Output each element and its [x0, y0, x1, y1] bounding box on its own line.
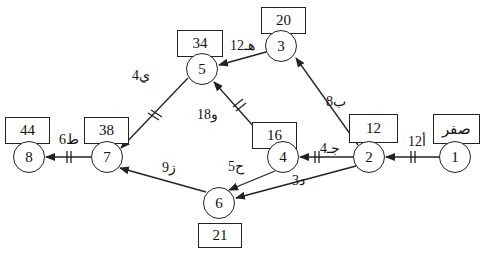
- node-3: 3: [265, 30, 297, 62]
- time-value: 21: [213, 227, 228, 244]
- node-label: 4: [279, 149, 287, 166]
- time-box-node-8: 44: [5, 117, 50, 144]
- time-value: 44: [20, 122, 35, 139]
- node-label: 6: [215, 195, 223, 212]
- edge-label-5-7: ي4: [132, 69, 150, 83]
- node-label: 3: [277, 38, 285, 55]
- node-6: 6: [203, 187, 235, 219]
- time-box-node-6: 21: [198, 223, 242, 248]
- node-label: 2: [365, 149, 373, 166]
- edge-5-7: [121, 78, 188, 148]
- edge-label-2-6: د3: [292, 174, 305, 188]
- node-label: 8: [25, 149, 33, 166]
- time-value: 38: [99, 122, 114, 139]
- edge-label-2-3: ب8: [326, 95, 346, 109]
- edge-3-5: [219, 52, 266, 65]
- node-1: 1: [439, 141, 471, 173]
- node-4: 4: [267, 141, 299, 173]
- time-box-node-7: 38: [84, 117, 129, 144]
- node-8: 8: [13, 141, 45, 173]
- node-5: 5: [186, 53, 218, 85]
- node-label: 1: [451, 149, 459, 166]
- time-value: صفر: [442, 120, 471, 138]
- time-value: 12: [366, 120, 381, 137]
- time-box-node-1: صفر: [433, 114, 480, 144]
- time-box-node-2: 12: [349, 114, 398, 143]
- edge-label-6-7: ز9: [162, 161, 176, 175]
- edge-label-2-4: جـ4: [320, 142, 340, 156]
- edge-label-1-2: أ12: [408, 135, 426, 149]
- node-label: 5: [198, 61, 206, 78]
- edge-label-7-8: ط6: [59, 133, 79, 147]
- node-label: 7: [103, 149, 111, 166]
- time-value: 34: [193, 35, 208, 52]
- edge-label-4-6: ح5: [228, 160, 244, 174]
- time-value: 20: [276, 12, 291, 29]
- edge-label-3-5: هـ12: [230, 39, 255, 53]
- edge-label-4-5: و18: [197, 108, 218, 122]
- node-2: 2: [353, 141, 385, 173]
- node-7: 7: [91, 141, 123, 173]
